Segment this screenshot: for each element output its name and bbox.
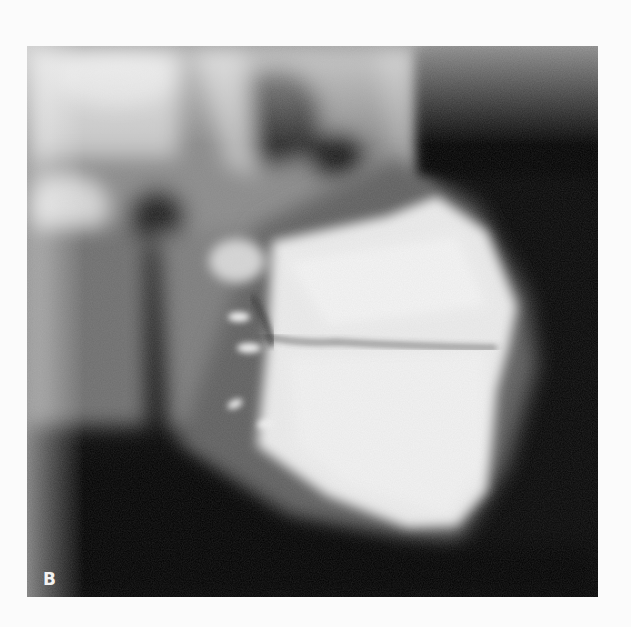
panel-label: B [43, 569, 56, 589]
radiograph-panel: B [27, 46, 598, 597]
radiograph-image [27, 46, 598, 597]
